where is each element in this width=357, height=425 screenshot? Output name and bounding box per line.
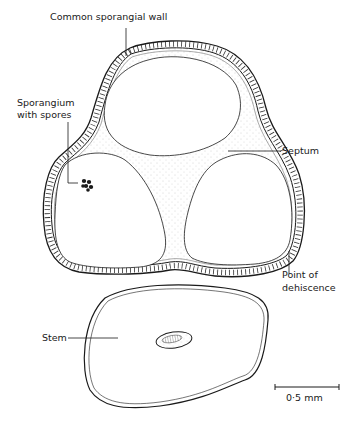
sporangium-top [104, 57, 240, 156]
label-dehiscence-line2: dehiscence [282, 282, 336, 294]
diagram-canvas [0, 0, 357, 425]
label-septum: Septum [282, 145, 319, 157]
scale-bar [275, 384, 339, 390]
label-sporangium-line2: with spores [17, 109, 71, 121]
label-common-sporangial-wall: Common sporangial wall [50, 11, 167, 23]
label-stem: Stem [42, 332, 67, 344]
stem [84, 285, 268, 408]
label-sporangium-line1: Sporangium [17, 97, 75, 109]
label-dehiscence-line1: Point of [282, 269, 318, 281]
scale-bar-label: 0·5 mm [286, 392, 323, 404]
